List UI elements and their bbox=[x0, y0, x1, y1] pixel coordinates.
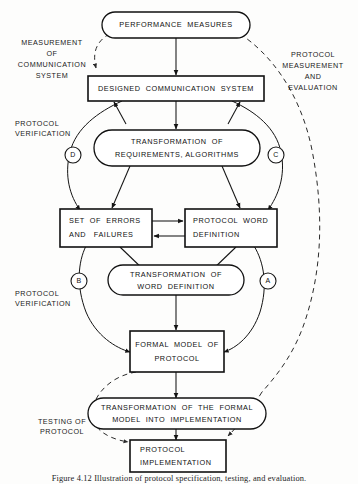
node-transformation-into-implementation-line-1: TRANSFORMATION OF THE FORMAL bbox=[101, 403, 253, 412]
marker-label-d: D bbox=[70, 151, 75, 158]
annotation-measurement-line-4: SYSTEM bbox=[36, 71, 69, 80]
line-diagonal-right-to-designed bbox=[228, 102, 240, 124]
node-protocol-implementation-line-2: IMPLEMENTATION bbox=[140, 458, 211, 467]
arc-b-errors-to-formal-model bbox=[79, 246, 130, 352]
annotation-protocol-verification-upper-line-1: PROTOCOL bbox=[15, 119, 59, 128]
arc-a-word-definition-to-formal-model bbox=[224, 246, 264, 352]
node-set-of-errors bbox=[60, 209, 152, 247]
node-transformation-word-definition-line-1: TRANSFORMATION OF bbox=[130, 270, 222, 279]
line-transformation-req-to-errors bbox=[112, 166, 130, 208]
annotation-protocol-evaluation-line-4: EVALUATION bbox=[288, 83, 337, 92]
node-set-of-errors-line-1: SET OF ERRORS bbox=[69, 216, 141, 225]
figure-caption: Figure 4.12 Illustration of protocol spe… bbox=[52, 474, 307, 483]
annotation-testing-of-protocol-line-1: TESTING OF bbox=[38, 417, 86, 426]
node-transformation-requirements-line-1: TRANSFORMATION OF bbox=[131, 137, 223, 146]
node-protocol-word-definition-line-2: DEFINITION bbox=[193, 230, 240, 239]
line-transformation-req-to-word-definition bbox=[222, 166, 240, 208]
annotation-testing-of-protocol-line-2: PROTOCOL bbox=[40, 427, 84, 436]
annotation-measurement-line-3: COMMUNICATION bbox=[18, 60, 86, 69]
node-formal-model-of-protocol-line-1: FORMAL MODEL OF bbox=[135, 340, 218, 349]
node-protocol-word-definition bbox=[185, 209, 277, 247]
node-transformation-requirements-line-2: REQUIREMENTS, ALGORITHMS bbox=[115, 150, 239, 159]
node-protocol-implementation-line-1: PROTOCOL bbox=[140, 445, 185, 454]
node-formal-model-of-protocol-line-2: PROTOCOL bbox=[154, 354, 199, 363]
figure-page: PERFORMANCE MEASURES DESIGNED COMMUNICAT… bbox=[0, 0, 358, 484]
annotation-measurement-line-2: OF bbox=[47, 49, 58, 58]
node-transformation-requirements bbox=[94, 130, 260, 166]
node-designed-communication-system-line-1: DESIGNED COMMUNICATION SYSTEM bbox=[98, 84, 254, 93]
protocol-specification-diagram: PERFORMANCE MEASURES DESIGNED COMMUNICAT… bbox=[0, 0, 358, 484]
line-diagonal-left-to-designed bbox=[114, 102, 126, 124]
node-formal-model-of-protocol bbox=[130, 331, 224, 372]
marker-label-b: B bbox=[77, 277, 82, 284]
annotation-protocol-evaluation-line-2: MEASUREMENT bbox=[282, 61, 344, 70]
annotation-measurement-line-1: MEASUREMENT bbox=[21, 38, 83, 47]
marker-label-c: C bbox=[273, 151, 278, 158]
node-set-of-errors-line-2: AND FAILURES bbox=[69, 230, 133, 239]
annotation-protocol-verification-upper-line-2: VERIFICATION bbox=[15, 129, 71, 138]
node-transformation-word-definition-line-2: WORD DEFINITION bbox=[137, 282, 214, 291]
node-performance-measures-line-1: PERFORMANCE MEASURES bbox=[119, 20, 232, 29]
node-protocol-word-definition-line-1: PROTOCOL WORD bbox=[193, 216, 268, 225]
annotation-protocol-evaluation-line-1: PROTOCOL bbox=[291, 50, 335, 59]
node-transformation-into-implementation-line-2: MODEL INTO IMPLEMENTATION bbox=[112, 415, 242, 424]
annotation-protocol-verification-lower-line-1: PROTOCOL bbox=[15, 289, 59, 298]
annotation-protocol-verification-lower-line-2: VERIFICATION bbox=[15, 299, 71, 308]
marker-label-a: A bbox=[266, 277, 271, 284]
annotation-protocol-evaluation-line-3: AND bbox=[305, 72, 322, 81]
